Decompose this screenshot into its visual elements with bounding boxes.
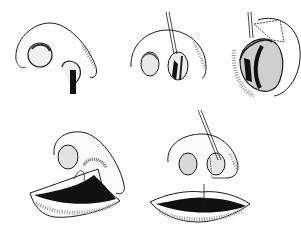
step-1-panel <box>10 15 100 85</box>
step-4-panel <box>24 125 134 225</box>
nostril-closeup-illustration <box>232 10 300 100</box>
step-3-panel <box>232 10 300 100</box>
nose-instrument-illustration <box>128 12 208 82</box>
incision-mark <box>70 70 76 94</box>
nose-base-illustration <box>10 15 100 85</box>
lip-repair-illustration <box>146 110 252 226</box>
step-2-panel <box>128 12 208 82</box>
step-5-panel <box>146 110 252 226</box>
lip-flap-illustration <box>24 125 134 225</box>
